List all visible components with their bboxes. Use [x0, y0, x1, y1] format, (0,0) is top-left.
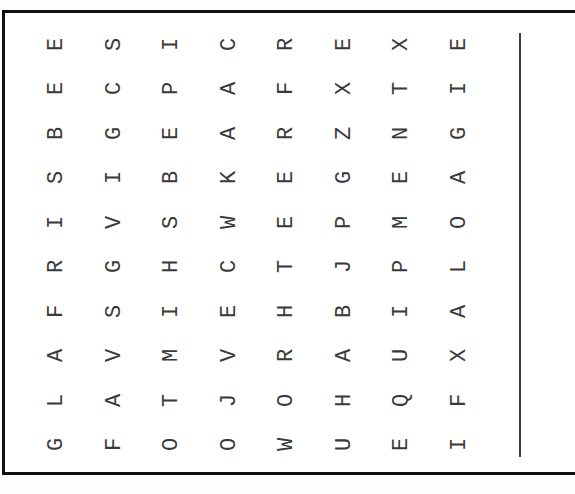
grid-letter: G — [332, 171, 357, 184]
grid-letter: R — [274, 127, 299, 140]
grid-letter: B — [332, 305, 357, 318]
grid-cell: E — [258, 200, 316, 245]
grid-letter: E — [274, 216, 299, 229]
grid-cell: G — [86, 245, 144, 290]
grid-letter: R — [274, 38, 299, 51]
grid-letter: I — [447, 82, 472, 95]
grid-cell: W — [258, 423, 316, 468]
grid-cell: A — [316, 334, 374, 379]
grid-letter: T — [389, 82, 414, 95]
grid-letter: A — [447, 305, 472, 318]
grid-cell: X — [316, 67, 374, 112]
grid-cell: V — [201, 334, 259, 379]
grid-letter: E — [389, 438, 414, 451]
grid-cell: I — [431, 423, 489, 468]
grid-letter: R — [44, 260, 69, 273]
grid-letter: F — [44, 305, 69, 318]
grid-cell: P — [373, 245, 431, 290]
grid-cell: G — [316, 156, 374, 201]
grid-cell: U — [316, 423, 374, 468]
grid-letter: G — [447, 127, 472, 140]
grid-letter: U — [389, 349, 414, 362]
grid-cell: O — [201, 423, 259, 468]
grid-cell: X — [373, 22, 431, 67]
grid-letter: S — [159, 216, 184, 229]
grid-letter: E — [159, 127, 184, 140]
grid-cell: S — [86, 22, 144, 67]
grid-letter: R — [274, 349, 299, 362]
grid-letter: F — [447, 394, 472, 407]
grid-cell: R — [258, 334, 316, 379]
grid-cell: I — [143, 22, 201, 67]
grid-cell: L — [431, 245, 489, 290]
grid-cell: O — [431, 200, 489, 245]
grid-cell: T — [143, 378, 201, 423]
grid-cell: B — [28, 111, 86, 156]
grid-cell: E — [28, 67, 86, 112]
grid-cell: L — [28, 378, 86, 423]
grid-letter: I — [159, 305, 184, 318]
grid-cell: S — [28, 156, 86, 201]
grid-cell: E — [431, 22, 489, 67]
grid-cell: I — [86, 156, 144, 201]
grid-letter: I — [389, 305, 414, 318]
grid-letter: J — [217, 394, 242, 407]
grid-letter: O — [159, 438, 184, 451]
grid-cell: M — [373, 200, 431, 245]
grid-cell: J — [201, 378, 259, 423]
grid-cell: A — [431, 289, 489, 334]
grid-cell: R — [258, 22, 316, 67]
grid-letter: C — [217, 38, 242, 51]
grid-letter: E — [274, 171, 299, 184]
grid-cell: E — [316, 22, 374, 67]
grid-letter: E — [332, 38, 357, 51]
grid-letter: E — [447, 38, 472, 51]
grid-letter: Q — [389, 394, 414, 407]
grid-letter: P — [159, 82, 184, 95]
grid-cell: V — [86, 200, 144, 245]
grid-cell: C — [201, 245, 259, 290]
grid-letter: O — [274, 394, 299, 407]
grid-cell: E — [373, 156, 431, 201]
grid-letter: F — [274, 82, 299, 95]
grid-letter: H — [274, 305, 299, 318]
grid-cell: J — [316, 245, 374, 290]
grid-letter: A — [447, 171, 472, 184]
grid-cell: A — [201, 111, 259, 156]
grid-letter: S — [44, 171, 69, 184]
grid-letter: W — [274, 438, 299, 451]
grid-letter: B — [159, 171, 184, 184]
grid-letter: A — [217, 82, 242, 95]
grid-cell: O — [143, 423, 201, 468]
grid-cell: F — [28, 289, 86, 334]
grid-letter: U — [332, 438, 357, 451]
grid-cell: I — [143, 289, 201, 334]
grid-letter: S — [102, 38, 127, 51]
grid-letter: E — [44, 38, 69, 51]
grid-letter: G — [44, 438, 69, 451]
grid-letter: V — [102, 349, 127, 362]
vertical-divider-line — [519, 33, 521, 457]
grid-letter: L — [44, 394, 69, 407]
grid-cell: P — [143, 67, 201, 112]
grid-letter: M — [389, 216, 414, 229]
grid-cell: C — [201, 22, 259, 67]
grid-letter: I — [447, 438, 472, 451]
grid-letter: A — [217, 127, 242, 140]
grid-letter: O — [217, 438, 242, 451]
grid-letter: F — [102, 438, 127, 451]
grid-letter: E — [389, 171, 414, 184]
grid-letter: A — [44, 349, 69, 362]
grid-cell: H — [258, 289, 316, 334]
grid-letter: H — [332, 394, 357, 407]
grid-cell: A — [201, 67, 259, 112]
grid-letter: N — [389, 127, 414, 140]
grid-cell: F — [431, 378, 489, 423]
grid-letter: O — [447, 216, 472, 229]
grid-letter: T — [159, 394, 184, 407]
grid-cell: O — [258, 378, 316, 423]
grid-cell: W — [201, 200, 259, 245]
grid-cell: N — [373, 111, 431, 156]
grid-cell: F — [258, 67, 316, 112]
grid-letter: B — [44, 127, 69, 140]
